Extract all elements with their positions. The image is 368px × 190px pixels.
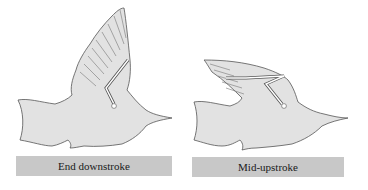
label-end-downstroke: End downstroke — [16, 156, 172, 176]
label-end-downstroke-text: End downstroke — [58, 160, 130, 172]
panel-end-downstroke: End downstroke — [0, 0, 184, 190]
label-mid-upstroke-text: Mid-upstroke — [238, 161, 298, 173]
label-mid-upstroke: Mid-upstroke — [192, 157, 344, 177]
panel-mid-upstroke: Mid-upstroke — [184, 0, 368, 190]
